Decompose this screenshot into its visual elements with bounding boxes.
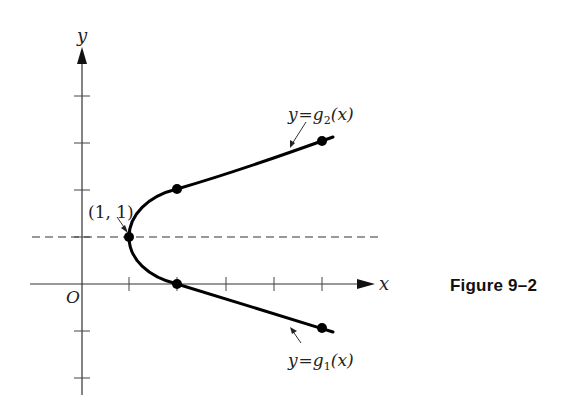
vertex-arrow-icon [121,225,128,233]
curve-g2 [129,137,333,237]
x-axis-label: x [379,273,389,294]
y-axis-arrow-icon [77,47,87,64]
data-points [124,136,327,333]
vertex-point [124,232,134,242]
vertex-label: (1, 1) [88,202,134,222]
y-axis-label: y [76,25,88,46]
figure-canvas: y x O (1, 1) y=g2(x) y=g1(x) Figure 9–2 [0,0,579,418]
point-2-2 [172,184,182,194]
point-5-3 [317,136,327,146]
figure-caption: Figure 9–2 [450,276,537,296]
g1-label: y=g1(x) [287,350,354,373]
g2-label: y=g2(x) [287,104,354,127]
g1-arrow-icon [290,327,297,334]
g2-leader [292,122,306,144]
origin-label: O [66,287,80,307]
point-5-neg1 [317,323,327,333]
point-2-0 [172,279,182,289]
parabola-plot: y x O (1, 1) y=g2(x) y=g1(x) [0,0,579,418]
x-axis-arrow-icon [357,279,375,289]
